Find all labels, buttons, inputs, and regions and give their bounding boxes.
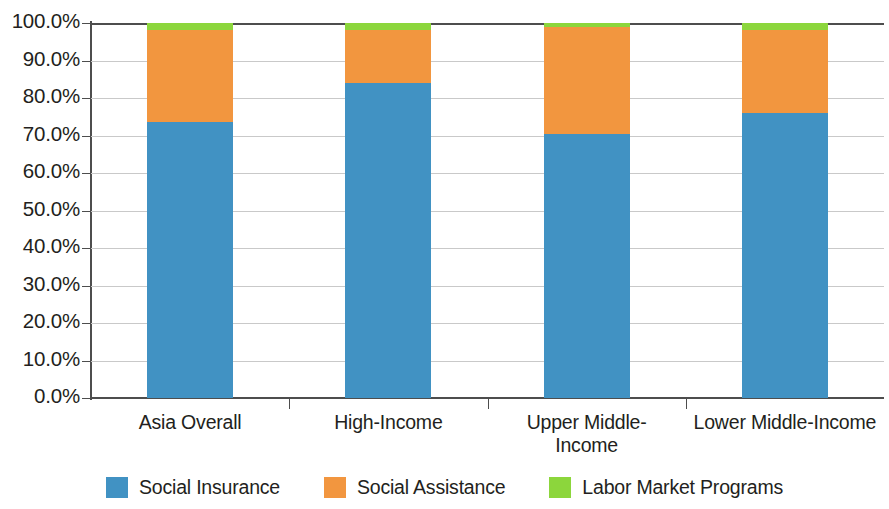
y-axis-tick-mark: [82, 23, 91, 24]
y-axis-label-group: 100.0%90.0%80.0%70.0%60.0%50.0%40.0%30.0…: [0, 0, 80, 420]
y-axis-tick-label: 20.0%: [2, 311, 80, 331]
y-axis-tick-label: 70.0%: [2, 124, 80, 144]
x-axis-tick-mark: [686, 399, 687, 409]
bar-segment: [742, 23, 828, 30]
bar-segment: [742, 113, 828, 398]
x-axis-category-label: Lower Middle-Income: [686, 411, 884, 434]
bar-segment: [544, 134, 630, 398]
y-axis-tick-mark: [82, 136, 91, 137]
legend-color-swatch: [106, 477, 128, 498]
y-axis-tick-mark: [82, 61, 91, 62]
y-axis-tick-label: 90.0%: [2, 49, 80, 69]
y-axis-tick-mark: [82, 248, 91, 249]
legend-label: Social Insurance: [139, 476, 280, 498]
y-axis-tick-mark: [82, 323, 91, 324]
y-axis-tick-mark: [82, 398, 91, 399]
bar-stack: [544, 23, 630, 398]
bar-segment: [742, 30, 828, 113]
bar-stack: [742, 23, 828, 398]
plot-area: [91, 23, 884, 398]
bar-segment: [147, 30, 233, 122]
y-axis-tick-label: 0.0%: [2, 386, 80, 406]
legend-color-swatch: [324, 477, 346, 498]
bar-stack: [147, 23, 233, 398]
y-axis-tick-label: 80.0%: [2, 86, 80, 106]
y-axis-tick-label: 60.0%: [2, 161, 80, 181]
y-axis-tick-label: 100.0%: [2, 11, 80, 31]
legend-item: Labor Market Programs: [549, 476, 783, 498]
x-axis-category-label: Asia Overall: [91, 411, 289, 434]
bar-segment: [345, 30, 431, 83]
bar-stack: [345, 23, 431, 398]
legend-color-swatch: [549, 477, 571, 498]
bar-segment: [544, 27, 630, 134]
chart-legend: Social InsuranceSocial AssistanceLabor M…: [0, 470, 889, 504]
x-axis-category-label: High-Income: [289, 411, 487, 434]
x-axis-category-label: Upper Middle- Income: [488, 411, 686, 457]
x-axis-tick-mark: [488, 399, 489, 409]
y-axis-tick-mark: [82, 98, 91, 99]
bar-segment: [345, 23, 431, 30]
y-axis-tick-label: 50.0%: [2, 199, 80, 219]
y-axis-tick-label: 10.0%: [2, 349, 80, 369]
y-axis-tick-mark: [82, 211, 91, 212]
bar-segment: [147, 23, 233, 30]
legend-item: Social Insurance: [106, 476, 280, 498]
stacked-bar-chart: 100.0%90.0%80.0%70.0%60.0%50.0%40.0%30.0…: [0, 0, 889, 509]
x-axis-tick-mark: [289, 399, 290, 409]
y-axis-tick-mark: [82, 173, 91, 174]
bar-segment: [345, 83, 431, 398]
legend-label: Social Assistance: [357, 476, 505, 498]
bar-segment: [147, 122, 233, 398]
y-axis-tick-mark: [82, 286, 91, 287]
y-axis-tick-mark: [82, 361, 91, 362]
legend-item: Social Assistance: [324, 476, 505, 498]
legend-label: Labor Market Programs: [582, 476, 783, 498]
y-axis-tick-label: 40.0%: [2, 236, 80, 256]
y-axis-tick-label: 30.0%: [2, 274, 80, 294]
